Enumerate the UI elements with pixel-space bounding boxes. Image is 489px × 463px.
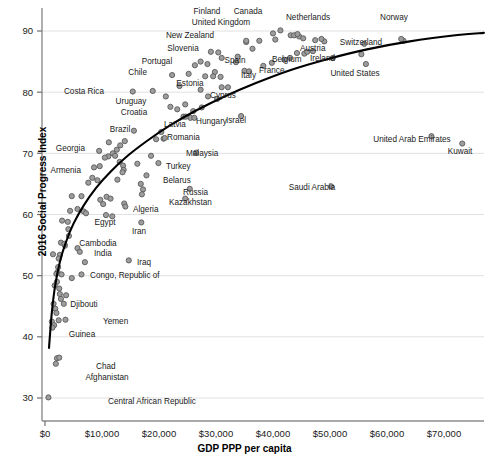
svg-text:Kuwait: Kuwait	[448, 147, 473, 156]
svg-text:Latvia: Latvia	[164, 120, 186, 129]
svg-text:Finland: Finland	[194, 7, 221, 16]
svg-text:Spain: Spain	[225, 56, 246, 65]
y-axis-title: 2016 Social Progress Index	[37, 92, 48, 292]
x-axis-ticks: $0$10,000$20,000$30,000$40,000$50,000$60…	[40, 421, 461, 439]
svg-text:$0: $0	[40, 428, 51, 439]
svg-text:90: 90	[22, 25, 33, 36]
svg-text:Kazakhstan: Kazakhstan	[169, 198, 212, 207]
scatter-chart: 30405060708090 $0$10,000$20,000$30,000$4…	[0, 0, 489, 463]
svg-text:New Zealand: New Zealand	[166, 31, 215, 40]
svg-text:Armenia: Armenia	[51, 166, 82, 175]
svg-text:Hungary: Hungary	[196, 117, 228, 126]
svg-text:$70,000: $70,000	[427, 428, 461, 439]
svg-text:Ireland: Ireland	[310, 54, 335, 63]
svg-text:Belarus: Belarus	[163, 176, 191, 185]
svg-text:$20,000: $20,000	[142, 428, 176, 439]
svg-text:India: India	[94, 249, 112, 258]
svg-text:Norway: Norway	[380, 13, 409, 22]
trend-curve	[49, 33, 484, 348]
data-points	[49, 31, 406, 361]
svg-text:Brazil: Brazil	[110, 125, 131, 134]
svg-text:Yemen: Yemen	[103, 317, 129, 326]
svg-text:United Arab Emirates: United Arab Emirates	[373, 135, 450, 144]
svg-text:Turkey: Turkey	[166, 162, 192, 171]
svg-text:Iran: Iran	[132, 227, 147, 236]
svg-text:Algeria: Algeria	[133, 205, 159, 214]
svg-text:80: 80	[22, 87, 33, 98]
svg-text:70: 70	[22, 148, 33, 159]
svg-text:Uruguay: Uruguay	[116, 97, 148, 106]
svg-text:Belgium: Belgium	[272, 55, 302, 64]
svg-text:Israel: Israel	[226, 116, 246, 125]
svg-text:Georgia: Georgia	[56, 144, 86, 153]
svg-text:Chad: Chad	[96, 362, 116, 371]
svg-text:$10,000: $10,000	[85, 428, 119, 439]
svg-text:Afghanistan: Afghanistan	[85, 373, 129, 382]
svg-text:Central African Republic: Central African Republic	[108, 397, 196, 406]
svg-text:60: 60	[22, 209, 33, 220]
plot-area: 30405060708090 $0$10,000$20,000$30,000$4…	[0, 0, 489, 463]
svg-text:Estonia: Estonia	[176, 79, 204, 88]
svg-text:Egypt: Egypt	[95, 218, 117, 227]
svg-text:Slovenia: Slovenia	[167, 44, 199, 53]
svg-text:United Kingdom: United Kingdom	[192, 18, 250, 27]
svg-text:40: 40	[22, 331, 33, 342]
svg-text:Croatia: Croatia	[121, 108, 148, 117]
svg-text:France: France	[259, 66, 285, 75]
svg-text:50: 50	[22, 270, 33, 281]
svg-text:Iraq: Iraq	[137, 258, 152, 267]
svg-text:Russia: Russia	[183, 188, 208, 197]
svg-text:Cyprus: Cyprus	[210, 91, 236, 100]
svg-text:Saudi Arabia: Saudi Arabia	[289, 183, 336, 192]
svg-text:Malaysia: Malaysia	[186, 149, 219, 158]
svg-text:Italy: Italy	[241, 71, 257, 80]
svg-text:Romania: Romania	[167, 133, 200, 142]
svg-text:$40,000: $40,000	[256, 428, 290, 439]
svg-text:Costa Rica: Costa Rica	[64, 87, 104, 96]
svg-text:Switzerland: Switzerland	[340, 38, 383, 47]
svg-text:$30,000: $30,000	[199, 428, 233, 439]
svg-text:United States: United States	[330, 69, 379, 78]
svg-text:Chile: Chile	[128, 68, 147, 77]
svg-text:Djibouti: Djibouti	[70, 300, 97, 309]
svg-text:Canada: Canada	[234, 7, 263, 16]
svg-text:$50,000: $50,000	[313, 428, 347, 439]
svg-text:Netherlands: Netherlands	[286, 13, 330, 22]
svg-text:30: 30	[22, 392, 33, 403]
point-labels: FinlandCanadaNetherlandsNorwayUnited Kin…	[51, 7, 474, 406]
svg-text:Cambodia: Cambodia	[79, 239, 117, 248]
svg-text:Portugal: Portugal	[142, 57, 173, 66]
x-axis-title: GDP PPP per capita	[0, 443, 489, 454]
svg-text:Guinea: Guinea	[69, 330, 96, 339]
svg-text:Austria: Austria	[300, 44, 326, 53]
svg-text:$60,000: $60,000	[370, 428, 404, 439]
svg-text:Congo, Republic of: Congo, Republic of	[90, 271, 160, 280]
